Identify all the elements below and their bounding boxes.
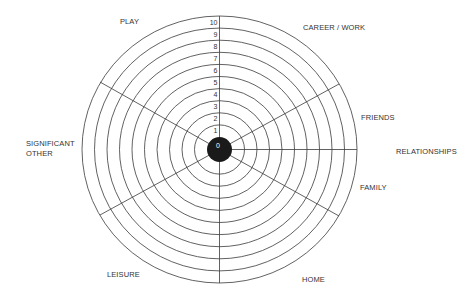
scale-label-6: 6 bbox=[214, 67, 218, 74]
scale-label-9: 9 bbox=[214, 31, 218, 38]
segment-label-relationships: RELATIONSHIPS bbox=[396, 147, 457, 157]
segment-label-home: HOME bbox=[302, 275, 325, 285]
scale-label-5: 5 bbox=[214, 79, 218, 86]
segment-label-friends: FRIENDS bbox=[361, 113, 395, 123]
spoke-6 bbox=[100, 82, 220, 150]
scale-label-1: 1 bbox=[214, 127, 218, 134]
scale-label-3: 3 bbox=[214, 103, 218, 110]
scale-label-4: 4 bbox=[214, 91, 218, 98]
segment-label-significant-other: SIGNIFICANT OTHER bbox=[26, 139, 75, 159]
scale-label-10: 10 bbox=[210, 19, 218, 26]
segment-label-career-work: CAREER / WORK bbox=[303, 23, 365, 33]
segment-label-leisure: LEISURE bbox=[107, 270, 140, 280]
center-value: 0 bbox=[216, 142, 220, 149]
scale-label-7: 7 bbox=[214, 55, 218, 62]
segment-label-family: FAMILY bbox=[360, 183, 387, 193]
spoke-3 bbox=[220, 150, 340, 217]
scale-label-8: 8 bbox=[214, 43, 218, 50]
segment-label-play: PLAY bbox=[120, 17, 139, 27]
scale-label-2: 2 bbox=[214, 115, 218, 122]
center-hub bbox=[207, 137, 232, 162]
